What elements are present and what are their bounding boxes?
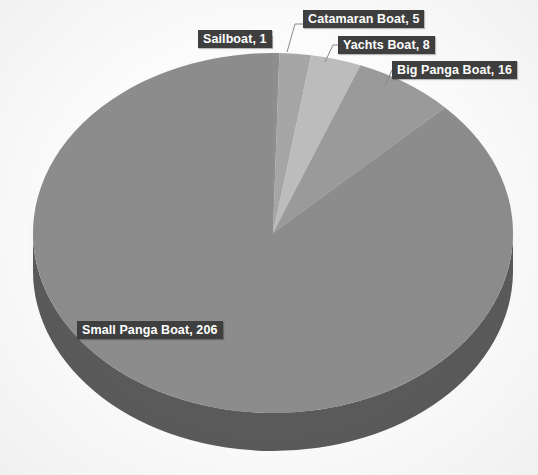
pie-top-face — [33, 53, 513, 413]
data-label-yachts: Yachts Boat, 8 — [338, 36, 435, 54]
leader-line-catamaran — [287, 24, 303, 52]
data-label-big-panga: Big Panga Boat, 16 — [392, 61, 517, 79]
data-label-small-panga: Small Panga Boat, 206 — [77, 321, 223, 339]
data-label-sailboat: Sailboat, 1 — [198, 30, 272, 48]
pie-chart: Sailboat, 1 Catamaran Boat, 5 Yachts Boa… — [0, 0, 538, 475]
data-label-catamaran: Catamaran Boat, 5 — [303, 10, 424, 28]
